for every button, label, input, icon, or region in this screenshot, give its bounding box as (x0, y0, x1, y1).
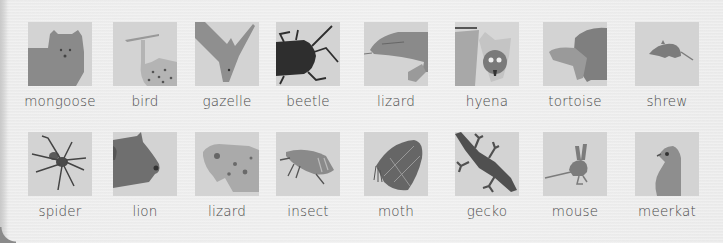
animal-item-mouse[interactable]: mouse (535, 132, 615, 219)
shrew-tile (635, 22, 699, 86)
animal-item-moth[interactable]: moth (356, 132, 436, 219)
animal-item-hyena[interactable]: hyena (447, 22, 527, 109)
animal-item-meerkat[interactable]: meerkat (627, 132, 707, 219)
animal-item-shrew[interactable]: shrew (627, 22, 707, 109)
animal-label: bird (105, 93, 185, 109)
spider-tile (28, 132, 92, 196)
animal-item-bird[interactable]: bird (105, 22, 185, 109)
lizard-icon (364, 22, 428, 86)
animal-label: lion (105, 203, 185, 219)
meerkat-icon (635, 132, 699, 196)
animal-item-insect[interactable]: insect (268, 132, 348, 219)
gazelle-tile (195, 22, 259, 86)
insect-tile (276, 132, 340, 196)
mongoose-icon (28, 22, 92, 86)
animal-label: meerkat (627, 203, 707, 219)
beetle-tile (276, 22, 340, 86)
tortoise-tile (543, 22, 607, 86)
animal-label: shrew (627, 93, 707, 109)
animal-label: lizard (187, 203, 267, 219)
animal-label: mongoose (20, 93, 100, 109)
animal-item-beetle[interactable]: beetle (268, 22, 348, 109)
meerkat-tile (635, 132, 699, 196)
lion-icon (113, 132, 177, 196)
shrew-icon (635, 22, 699, 86)
gecko-tile (455, 132, 519, 196)
mouse-tile (543, 132, 607, 196)
animal-label: moth (356, 203, 436, 219)
animal-item-lion[interactable]: lion (105, 132, 185, 219)
lizard-tile (364, 22, 428, 86)
animal-label: insect (268, 203, 348, 219)
lizard-2-tile (195, 132, 259, 196)
insect-icon (276, 132, 340, 196)
animal-label: lizard (356, 93, 436, 109)
moth-tile (364, 132, 428, 196)
animal-item-lizard[interactable]: lizard (356, 22, 436, 109)
mouse-icon (543, 132, 607, 196)
animal-item-gecko[interactable]: gecko (447, 132, 527, 219)
bird-tile (113, 22, 177, 86)
tortoise-icon (543, 22, 607, 86)
lion-tile (113, 132, 177, 196)
animal-label: mouse (535, 203, 615, 219)
animal-item-tortoise[interactable]: tortoise (535, 22, 615, 109)
hyena-icon (455, 22, 519, 86)
gecko-icon (455, 132, 519, 196)
beetle-icon (276, 22, 340, 86)
mongoose-tile (28, 22, 92, 86)
animal-label: beetle (268, 93, 348, 109)
bird-icon (113, 22, 177, 86)
lizard-icon (195, 132, 259, 196)
animal-item-spider[interactable]: spider (20, 132, 100, 219)
hyena-tile (455, 22, 519, 86)
animal-label: gecko (447, 203, 527, 219)
spider-icon (28, 132, 92, 196)
animal-item-mongoose[interactable]: mongoose (20, 22, 100, 109)
animal-label: tortoise (535, 93, 615, 109)
animal-grid: mongoose bird gazelle beetle (0, 0, 723, 243)
animal-label: gazelle (187, 93, 267, 109)
animal-item-lizard-2[interactable]: lizard (187, 132, 267, 219)
gazelle-icon (195, 22, 259, 86)
animal-item-gazelle[interactable]: gazelle (187, 22, 267, 109)
moth-icon (364, 132, 428, 196)
animal-label: spider (20, 203, 100, 219)
animal-label: hyena (447, 93, 527, 109)
